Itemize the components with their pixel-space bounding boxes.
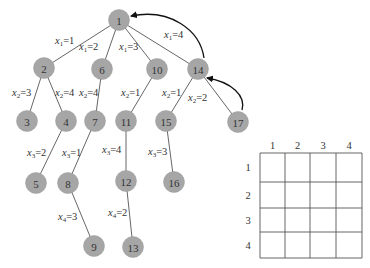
board-grid: 1234 1234 (245, 140, 362, 259)
tree-node-3: 3 (17, 111, 38, 132)
tree-node-2: 2 (34, 58, 55, 79)
node-label: 15 (161, 116, 173, 128)
tree-node-4: 4 (56, 111, 77, 132)
tree-node-16: 16 (164, 172, 185, 193)
row-label: 2 (245, 190, 250, 201)
edge-label: x2=1 (120, 87, 140, 100)
edge-label: x3=2 (26, 147, 46, 160)
tree-node-17: 17 (228, 112, 249, 133)
edge-label: x2=4 (54, 87, 75, 100)
edge-label: x1=2 (78, 41, 98, 54)
edge-label: x2=4 (78, 87, 99, 100)
node-label: 13 (128, 242, 140, 254)
tree-node-7: 7 (85, 111, 106, 132)
edge-label: x4=2 (107, 207, 127, 220)
column-label: 3 (320, 140, 325, 151)
edge-label: x1=3 (118, 41, 138, 54)
column-label: 1 (270, 140, 275, 151)
node-label: 14 (193, 64, 205, 76)
row-label: 3 (245, 215, 250, 226)
tree-node-5: 5 (26, 173, 47, 194)
tree-node-1: 1 (109, 10, 130, 31)
node-label: 4 (63, 116, 69, 128)
node-label: 9 (91, 241, 97, 253)
node-label: 2 (41, 63, 47, 75)
tree-node-8: 8 (58, 173, 79, 194)
column-label: 4 (346, 140, 352, 151)
edge-label: x2=3 (11, 87, 31, 100)
state-space-tree-diagram: x1=1x1=2x1=3x1=4x2=3x2=4x2=4x2=1x2=1x2=2… (0, 0, 370, 268)
tree-node-9: 9 (84, 236, 105, 257)
edge-label: x1=4 (163, 29, 184, 42)
node-label: 8 (65, 178, 71, 190)
column-label: 2 (295, 140, 300, 151)
tree-node-13: 13 (123, 237, 144, 258)
tree-node-10: 10 (147, 59, 168, 80)
node-label: 10 (152, 64, 164, 76)
node-label: 6 (99, 64, 105, 76)
board-row-labels: 1234 (245, 162, 251, 251)
node-label: 12 (121, 176, 132, 188)
row-label: 1 (245, 162, 250, 173)
row-label: 4 (245, 240, 251, 251)
edge-label: x3=3 (147, 146, 167, 159)
node-label: 11 (121, 116, 132, 128)
board-column-labels: 1234 (270, 140, 353, 151)
tree-node-15: 15 (156, 111, 177, 132)
tree-node-6: 6 (92, 59, 113, 80)
node-label: 5 (33, 178, 39, 190)
edge-label: x4=3 (57, 211, 77, 224)
edge-label: x2=2 (187, 92, 207, 105)
edge-label: x3=4 (101, 144, 122, 157)
board-grid-lines (260, 153, 362, 258)
tree-node-11: 11 (116, 111, 137, 132)
tree-node-12: 12 (116, 171, 137, 192)
node-label: 7 (92, 116, 98, 128)
node-label: 16 (169, 177, 181, 189)
edge-label: x2=1 (161, 87, 181, 100)
edge-label: x3=1 (61, 147, 81, 160)
node-label: 17 (233, 117, 245, 129)
edge-label: x1=1 (54, 35, 74, 48)
node-label: 3 (24, 116, 30, 128)
node-label: 1 (116, 15, 122, 27)
tree-node-14: 14 (188, 59, 209, 80)
